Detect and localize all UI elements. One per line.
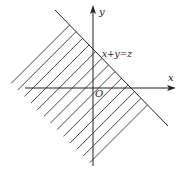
hatch-line <box>18 32 76 90</box>
hatched-region <box>11 25 147 163</box>
hatch-line <box>57 72 115 130</box>
hatch-line <box>90 105 148 163</box>
hatch-line <box>77 92 135 150</box>
line-equation-label: x+y=z <box>102 49 132 59</box>
boundary-line <box>55 10 168 126</box>
coordinate-diagram: y x O x+y=z <box>0 0 179 176</box>
hatch-line <box>37 52 95 110</box>
y-axis-label: y <box>99 7 105 17</box>
hatch-line <box>11 25 69 83</box>
x-axis-label: x <box>168 73 174 83</box>
diagram-canvas <box>0 0 179 176</box>
origin-label: O <box>95 89 103 99</box>
hatch-line <box>31 45 89 103</box>
hatch-line <box>83 98 141 156</box>
